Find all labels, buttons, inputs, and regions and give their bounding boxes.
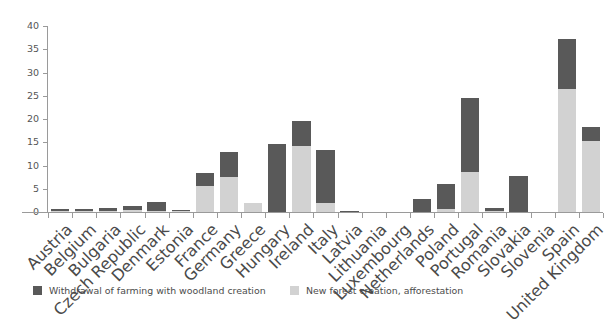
bar-segment-withdrawal-farming	[196, 173, 214, 186]
x-axis-tick	[362, 213, 363, 218]
x-axis-tick	[410, 213, 411, 218]
bar-segment-withdrawal-farming	[316, 150, 334, 203]
bar-segment-withdrawal-farming	[461, 98, 479, 171]
x-axis-tick	[289, 213, 290, 218]
x-axis-tick	[265, 213, 266, 218]
x-axis-tick	[120, 213, 121, 218]
bar-slot	[96, 26, 120, 212]
bar-segment-new-forest-creation	[461, 172, 479, 212]
bar-segment-withdrawal-farming	[292, 121, 310, 145]
x-axis-tick	[169, 213, 170, 218]
bar-segment-new-forest-creation	[558, 89, 576, 212]
bar-slot	[265, 26, 289, 212]
stacked-bar[interactable]	[268, 144, 286, 212]
bar-slot	[362, 26, 386, 212]
bar-segment-new-forest-creation	[485, 211, 503, 212]
bar-slot	[313, 26, 337, 212]
x-axis-tick	[482, 213, 483, 218]
bar-slot	[531, 26, 555, 212]
x-axis-tick	[193, 213, 194, 218]
bar-segment-new-forest-creation	[437, 209, 455, 212]
x-axis-tick	[241, 213, 242, 218]
bar-segment-new-forest-creation	[244, 203, 262, 212]
bar-slot	[72, 26, 96, 212]
x-axis-tick	[579, 213, 580, 218]
stacked-bar[interactable]	[147, 202, 165, 212]
bar-slot	[506, 26, 530, 212]
x-axis-tick	[313, 213, 314, 218]
chart-legend: Withdrawal of farming with woodland crea…	[0, 285, 609, 305]
stacked-bar[interactable]	[196, 173, 214, 212]
stacked-bar[interactable]	[340, 211, 358, 212]
stacked-bar[interactable]	[509, 176, 527, 212]
bar-segment-new-forest-creation	[99, 211, 117, 212]
bar-slot	[338, 26, 362, 212]
bar-slot	[241, 26, 265, 212]
bar-segment-new-forest-creation	[220, 177, 238, 212]
stacked-bar[interactable]	[437, 184, 455, 212]
stacked-bar[interactable]	[292, 121, 310, 212]
bar-segment-new-forest-creation	[75, 211, 93, 212]
bar-slot	[410, 26, 434, 212]
bar-segment-new-forest-creation	[292, 146, 310, 212]
stacked-bar[interactable]	[244, 203, 262, 212]
bar-segment-new-forest-creation	[172, 211, 190, 212]
bar-slot	[217, 26, 241, 212]
stacked-bar[interactable]	[461, 98, 479, 212]
x-axis-tick	[506, 213, 507, 218]
bar-slot	[120, 26, 144, 212]
bar-slot	[169, 26, 193, 212]
legend-label: New forest creation, afforestation	[306, 285, 463, 296]
stacked-bar[interactable]	[123, 206, 141, 212]
stacked-bar[interactable]	[220, 152, 238, 212]
bar-segment-new-forest-creation	[123, 210, 141, 212]
stacked-bar[interactable]	[413, 199, 431, 212]
bar-slot	[193, 26, 217, 212]
x-axis-tick	[338, 213, 339, 218]
bar-segment-withdrawal-farming	[340, 211, 358, 212]
bar-slot	[555, 26, 579, 212]
legend-swatch-icon	[33, 286, 42, 295]
y-axis-tick-label: 25	[27, 91, 39, 101]
y-axis-tick-label: 20	[27, 114, 39, 124]
bar-slot	[482, 26, 506, 212]
y-axis-tick-label: 15	[27, 138, 39, 148]
stacked-bar[interactable]	[99, 208, 117, 212]
y-axis-tick-label: 5	[33, 184, 39, 194]
bar-segment-withdrawal-farming	[413, 199, 431, 212]
bar-segment-new-forest-creation	[147, 211, 165, 212]
x-axis-tick	[434, 213, 435, 218]
bar-slot	[579, 26, 603, 212]
x-axis-tick	[603, 213, 604, 218]
bar-slot	[48, 26, 72, 212]
x-axis-tick	[145, 213, 146, 218]
legend-swatch-icon	[290, 286, 299, 295]
bar-slot	[289, 26, 313, 212]
stacked-bar[interactable]	[316, 150, 334, 212]
stacked-bar[interactable]	[582, 127, 600, 212]
x-axis-tick	[96, 213, 97, 218]
legend-item[interactable]: Withdrawal of farming with woodland crea…	[33, 285, 266, 296]
x-axis-tick	[458, 213, 459, 218]
legend-label: Withdrawal of farming with woodland crea…	[49, 285, 266, 296]
bar-segment-new-forest-creation	[196, 186, 214, 212]
stacked-bar[interactable]	[51, 209, 69, 212]
bar-segment-new-forest-creation	[51, 211, 69, 212]
bar-segment-new-forest-creation	[316, 203, 334, 212]
stacked-bar[interactable]	[75, 209, 93, 212]
x-axis-tick	[531, 213, 532, 218]
x-axis-tick	[48, 213, 49, 218]
bar-segment-withdrawal-farming	[220, 152, 238, 178]
stacked-bar[interactable]	[172, 210, 190, 212]
bar-segment-withdrawal-farming	[268, 144, 286, 212]
legend-item[interactable]: New forest creation, afforestation	[290, 285, 463, 296]
y-axis-tick-label: 35	[27, 45, 39, 55]
stacked-bar[interactable]	[558, 39, 576, 212]
x-axis-tick	[555, 213, 556, 218]
bar-slot	[386, 26, 410, 212]
stacked-bar[interactable]	[485, 208, 503, 212]
bar-slot	[434, 26, 458, 212]
y-axis-tick-label: 30	[27, 68, 39, 78]
x-axis-tick	[386, 213, 387, 218]
y-axis: 0510152025303540	[0, 0, 48, 213]
